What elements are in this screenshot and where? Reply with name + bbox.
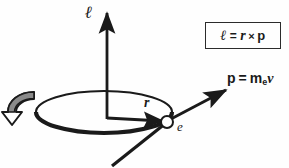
rotation-arrow [2,92,34,125]
electron-label: e [177,120,183,133]
angular-momentum-diagram: ℓ r e p=meν ℓ=r×p [0,0,289,168]
momentum-mass-symbol: m [250,70,262,86]
momentum-equals-sign: = [236,70,250,86]
orbit-upper-arc [36,91,172,112]
momentum-velocity-symbol: ν [267,71,273,86]
rotation-arrow-shaded-face [8,92,34,112]
angular-momentum-label: ℓ [85,4,92,21]
radius-label: r [144,96,149,110]
orbit-ring [36,91,172,133]
equation-text: ℓ=r×p [206,23,280,48]
momentum-arrow [169,90,226,120]
radius-arrow [107,118,162,121]
equation-equals-sign: = [227,29,241,43]
momentum-p-symbol: p [227,70,236,86]
electron-marker [161,116,173,128]
equation-box: ℓ=r×p [205,22,281,49]
equation-p-symbol: p [257,28,265,43]
equation-cross-product-symbol: × [246,30,257,42]
orbit-lower-arc [36,112,172,133]
momentum-label: p=meν [227,71,273,87]
